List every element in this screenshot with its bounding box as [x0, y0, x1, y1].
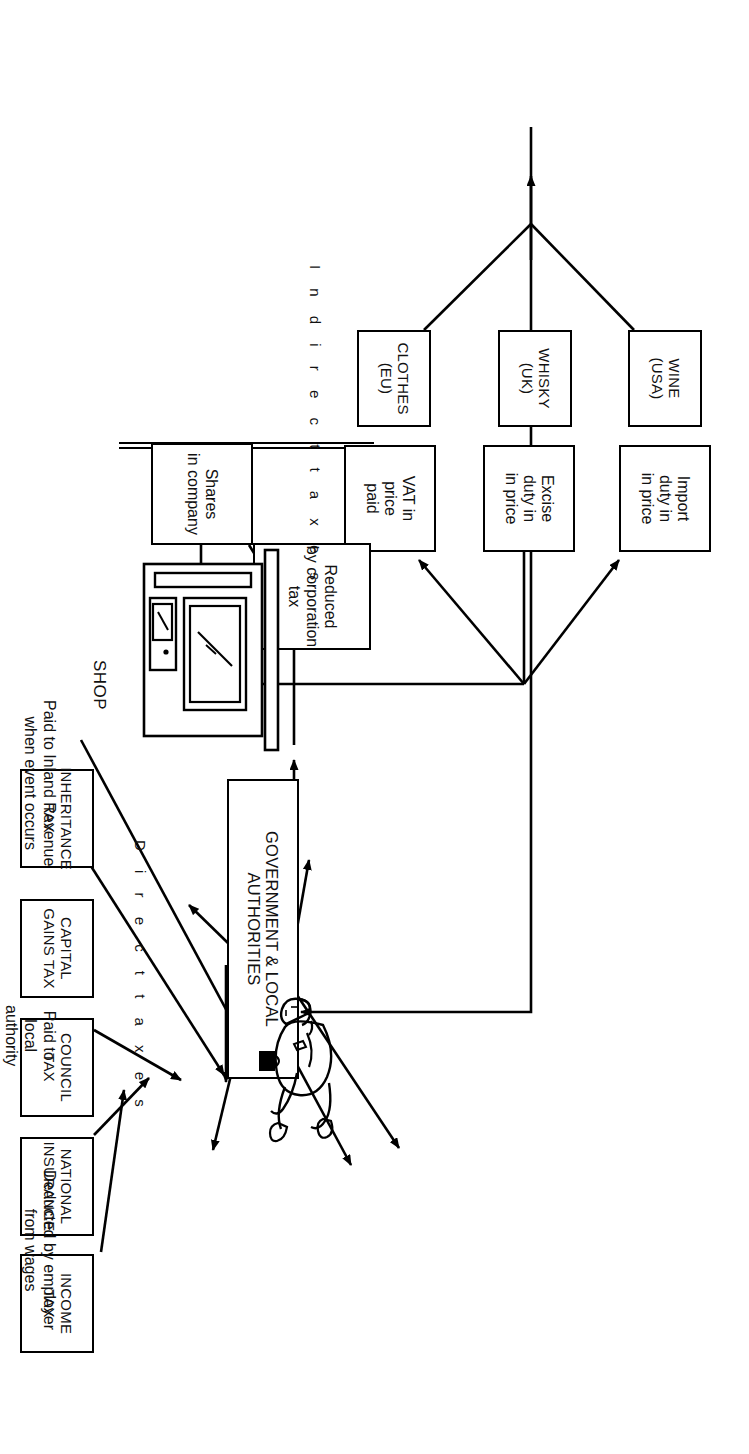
box-vat-line1: VAT in: [399, 476, 417, 521]
box-wine-line2: (USA): [648, 358, 665, 400]
box-clothes-line2: (EU): [377, 342, 394, 414]
box-import-duty-line2: duty in: [656, 473, 674, 525]
shop-illustration: [119, 540, 294, 770]
note-deducted-by-employer: Deducted by employer from wages: [21, 1170, 59, 1330]
box-whisky-line1: WHISKY: [535, 348, 552, 408]
box-whisky[interactable]: WHISKY (UK): [498, 330, 572, 427]
fan-arm-wine: [531, 224, 634, 330]
box-shares-in-company[interactable]: Shares in company: [151, 443, 253, 545]
diagram-page: WINE (USA) WHISKY (UK) CLOTHES (EU) Impo…: [0, 0, 749, 1454]
box-import-duty[interactable]: Import duty in in price: [619, 445, 711, 552]
box-vat-line2: price: [381, 476, 399, 521]
box-shares-line2: in company: [184, 453, 202, 535]
box-capital-gains-tax[interactable]: CAPITAL GAINS TAX: [20, 899, 94, 998]
person-figure: [189, 955, 349, 1145]
arrow-import-duty: [524, 560, 619, 684]
box-vat-line3: paid: [363, 476, 381, 521]
box-import-duty-line1: Import: [674, 473, 692, 525]
box-clothes[interactable]: CLOTHES (EU): [357, 330, 431, 427]
box-clothes-line1: CLOTHES: [394, 342, 411, 414]
arrow-vat: [419, 560, 524, 684]
connector-layer: [0, 0, 749, 1454]
note-deducted-line2: from wages: [22, 1209, 39, 1292]
shop-label: SHOP: [89, 660, 109, 710]
box-excise-duty[interactable]: Excise duty in in price: [483, 445, 575, 552]
box-excise-duty-line3: in price: [502, 473, 520, 525]
box-excise-duty-line1: Excise: [538, 473, 556, 525]
box-council-tax-line1: COUNCIL: [57, 1033, 74, 1102]
note-paid-to-inland-revenue: Paid to Inland Revenue when event occurs: [21, 700, 59, 866]
label-indirect-taxes: I n d i r e c t t a x e s: [307, 265, 324, 588]
box-import-duty-line3: in price: [638, 473, 656, 525]
note-inland-line1: Paid to Inland Revenue: [41, 700, 58, 866]
box-national-insurance-line1: NATIONAL: [57, 1141, 74, 1231]
box-excise-duty-line2: duty in: [520, 473, 538, 525]
box-capital-gains-tax-line1: CAPITAL: [57, 908, 74, 988]
box-wine[interactable]: WINE (USA): [628, 330, 702, 427]
note-inland-line2: when event occurs: [22, 716, 39, 849]
fan-arm-clothes: [424, 224, 531, 330]
box-whisky-line2: (UK): [518, 348, 535, 408]
box-capital-gains-tax-line2: GAINS TAX: [40, 908, 57, 988]
diagram-canvas: WINE (USA) WHISKY (UK) CLOTHES (EU) Impo…: [0, 0, 749, 1454]
box-shares-line1: Shares: [202, 453, 220, 535]
note-local-line3: authority: [3, 1005, 20, 1066]
label-direct-taxes: D i r e c t t a x e s: [132, 840, 149, 1114]
note-local-line2: local: [22, 1019, 39, 1052]
box-wine-line1: WINE: [665, 358, 682, 400]
box-income-tax-line1: INCOME: [57, 1273, 74, 1334]
note-local-line1: Paid to: [41, 1011, 58, 1061]
box-inheritance-tax-line1: INHERITANCE: [57, 767, 74, 870]
note-paid-to-local-authority: Paid to local authority: [1, 1005, 59, 1066]
note-deducted-line1: Deducted by employer: [41, 1170, 58, 1330]
box-vat[interactable]: VAT in price paid: [344, 445, 436, 552]
